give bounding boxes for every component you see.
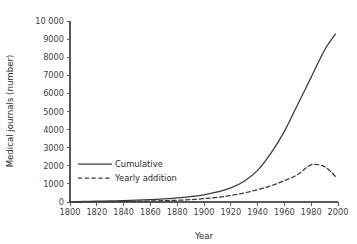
data-series-group	[70, 34, 335, 202]
y-tick-label: 10 000	[35, 16, 64, 26]
x-tick-label: 1900	[194, 207, 215, 217]
x-tick-label: 1880	[167, 207, 188, 217]
y-tick-label: 5000	[43, 107, 64, 117]
x-tick-label: 1940	[247, 207, 268, 217]
x-tick-label: 1920	[220, 207, 241, 217]
x-tick-label: 1840	[113, 207, 134, 217]
y-tick-label: 4000	[43, 125, 64, 135]
chart-container: 010002000300040005000600070008000900010 …	[0, 0, 357, 244]
line-chart-figure: 010002000300040005000600070008000900010 …	[0, 0, 357, 244]
legend-label: Yearly addition	[114, 173, 177, 183]
y-tick-label: 8000	[43, 52, 64, 62]
y-tick-label: 0	[59, 197, 64, 207]
y-tick-label: 9000	[43, 34, 64, 44]
x-axis-ticks: 1800182018401860188019001920194019601980…	[60, 202, 349, 217]
y-axis-title: Medical journals (number)	[5, 55, 15, 168]
x-tick-label: 2000	[328, 207, 349, 217]
x-tick-label: 1800	[60, 207, 81, 217]
series-line-cumulative	[70, 34, 335, 202]
x-tick-label: 1960	[274, 207, 295, 217]
y-tick-label: 3000	[43, 143, 64, 153]
y-tick-label: 7000	[43, 70, 64, 80]
y-axis-ticks: 010002000300040005000600070008000900010 …	[35, 16, 70, 207]
chart-legend: CumulativeYearly addition	[78, 159, 177, 183]
legend-label: Cumulative	[115, 159, 163, 169]
series-line-yearly-addition	[70, 164, 335, 201]
x-tick-label: 1860	[140, 207, 161, 217]
x-tick-label: 1980	[301, 207, 322, 217]
y-tick-label: 1000	[43, 179, 64, 189]
y-tick-label: 6000	[43, 88, 64, 98]
y-tick-label: 2000	[43, 161, 64, 171]
x-axis-title: Year	[194, 231, 214, 241]
x-tick-label: 1820	[86, 207, 107, 217]
